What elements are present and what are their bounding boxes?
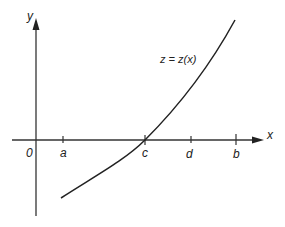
origin-label: 0 xyxy=(26,146,33,160)
y-axis-arrow-icon xyxy=(33,18,40,30)
curve-label: z = z(x) xyxy=(159,53,197,65)
tick-label-d: d xyxy=(186,147,193,161)
y-axis-label: y xyxy=(26,9,34,23)
curve-z-of-x xyxy=(61,20,235,198)
tick-label-c: c xyxy=(142,146,148,160)
x-axis xyxy=(12,137,264,144)
x-axis-arrow-icon xyxy=(252,137,264,144)
y-axis xyxy=(33,18,40,216)
x-axis-label: x xyxy=(266,128,274,142)
diagram-canvas: y x 0 a c d b z = z(x) xyxy=(0,0,285,227)
tick-label-b: b xyxy=(233,147,240,161)
tick-label-a: a xyxy=(60,146,67,160)
